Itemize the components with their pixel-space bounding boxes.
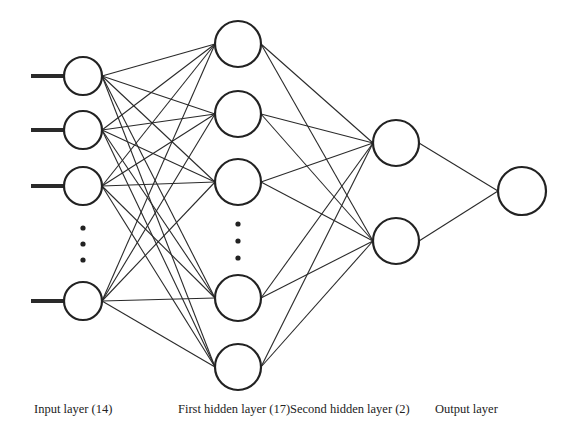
connection [261,241,373,298]
label-second-hidden-layer: Second hidden layer (2) [290,402,410,417]
connection [102,301,215,367]
connection [102,44,215,76]
hidden2-neuron [373,218,419,264]
hidden2-neuron [373,120,419,166]
input-neuron [64,167,102,205]
connection [102,76,215,298]
hidden1-neuron [215,21,261,67]
input-stubs [31,76,64,301]
neural-network-diagram [0,0,586,444]
connection [102,114,215,130]
connection [102,76,215,367]
hidden1-neuron [215,344,261,390]
input-neuron [64,111,102,149]
output-neuron [498,167,546,215]
ellipsis-dot [235,238,240,243]
connection [102,182,215,301]
hidden1-neuron [215,91,261,137]
connection [102,44,215,301]
connection [102,182,215,186]
input-neuron [64,57,102,95]
ellipsis-dot [80,241,85,246]
label-input-layer: Input layer (14) [34,402,112,417]
connection [261,143,373,298]
hidden1-neuron [215,159,261,205]
connection [102,44,215,186]
connection [419,191,498,241]
connection [102,44,215,130]
connection [102,114,215,186]
ellipsis-dot [235,255,240,260]
connection [102,298,215,301]
ellipsis-dot [235,221,240,226]
ellipsis-dot [80,257,85,262]
label-first-hidden-layer: First hidden layer (17) [178,402,290,417]
input-neuron [64,282,102,320]
connection [261,241,373,367]
connections [102,44,498,367]
label-output-layer: Output layer [435,402,498,417]
hidden1-neuron [215,275,261,321]
ellipsis-dot [80,225,85,230]
connection [419,143,498,191]
